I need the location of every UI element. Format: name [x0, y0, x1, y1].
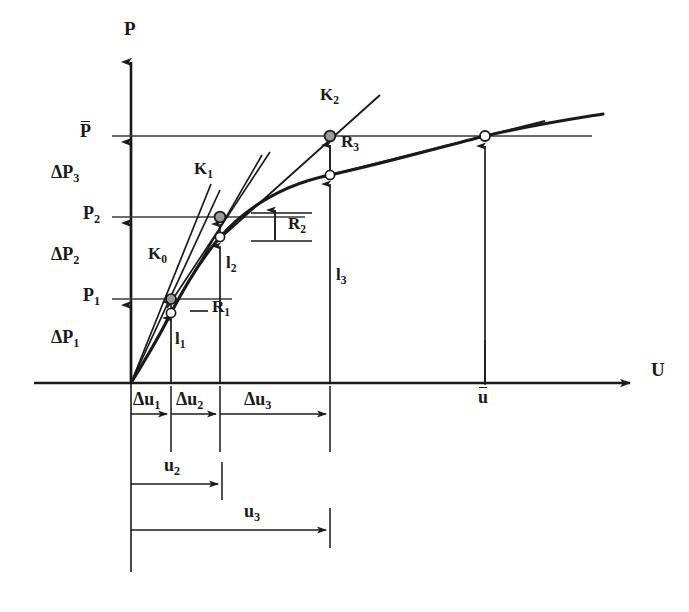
p-bar-label: P: [80, 122, 91, 140]
load-displacement-diagram: P U P P2 P1 ΔP3 ΔP2 ΔP1 K0 K1 K2 R1 R2 R…: [0, 0, 689, 612]
K1-label: K1: [194, 160, 213, 180]
R1-glyph: R: [212, 297, 224, 316]
R1-label: R1: [212, 298, 230, 318]
p2-sub: 2: [94, 212, 100, 226]
l3-label: l3: [336, 266, 347, 286]
K1-sub: 1: [207, 168, 213, 181]
y-axis-label: P: [124, 19, 136, 38]
du1-glyph: Δu: [133, 389, 154, 409]
load-displacement-curve: [131, 114, 603, 383]
u-bar-label: u: [478, 388, 488, 406]
l2-label: l2: [226, 254, 237, 274]
displacement-ticks: [171, 340, 485, 548]
u3-glyph: u: [244, 501, 254, 521]
p1-glyph: P: [83, 285, 94, 305]
marker-p2-tangent: [215, 212, 226, 223]
dP2-glyph: ΔP: [51, 244, 73, 264]
K1-glyph: K: [194, 159, 207, 178]
dP3-glyph: ΔP: [51, 162, 73, 182]
marker-p2-curve: [215, 232, 224, 241]
x-axis-label: U: [651, 360, 665, 379]
l2-sub: 2: [231, 262, 237, 275]
du2-sub: 2: [197, 398, 203, 412]
R1-sub: 1: [224, 306, 230, 319]
l1-label: l1: [175, 330, 186, 350]
du2-glyph: Δu: [176, 389, 197, 409]
du1-label: Δu1: [133, 390, 160, 411]
K0-glyph: K: [148, 244, 161, 263]
tangent-K0-line-b: [131, 190, 220, 383]
u-bar-glyph: u: [478, 388, 488, 406]
dP2-sub: 2: [73, 253, 79, 267]
displacement-increment-arrows: [131, 414, 326, 530]
dP1-label: ΔP1: [51, 328, 79, 349]
R3-glyph: R: [341, 132, 353, 151]
dP2-label: ΔP2: [51, 245, 79, 266]
marker-p1-curve: [166, 308, 175, 317]
tangent-K1-line-b: [167, 152, 270, 308]
K2-label: K2: [320, 86, 339, 106]
R2-label: R2: [288, 215, 306, 235]
R3-sub: 3: [353, 141, 359, 154]
du2-label: Δu2: [176, 390, 203, 411]
u2-label: u2: [164, 456, 180, 477]
node-markers: [166, 131, 490, 318]
marker-converged: [480, 131, 490, 141]
load-level-lines: [112, 136, 592, 299]
R2-sub: 2: [300, 223, 306, 236]
K0-sub: 0: [161, 253, 167, 266]
dP1-sub: 1: [73, 336, 79, 350]
p1-label: P1: [83, 286, 100, 307]
du3-sub: 3: [265, 398, 271, 412]
marker-p3-tangent: [325, 131, 336, 142]
K0-label: K0: [148, 245, 167, 265]
u3-label: u3: [244, 502, 260, 523]
diagram-canvas: [0, 0, 689, 612]
K2-glyph: K: [320, 85, 333, 104]
marker-p3-curve: [325, 170, 334, 179]
u3-sub: 3: [254, 510, 260, 524]
internal-force-arrows: [171, 146, 485, 383]
u2-sub: 2: [174, 464, 180, 478]
du3-glyph: Δu: [244, 389, 265, 409]
du1-sub: 1: [154, 398, 160, 412]
p2-label: P2: [83, 204, 100, 225]
l1-sub: 1: [180, 338, 186, 351]
u2-glyph: u: [164, 455, 174, 475]
dP3-label: ΔP3: [51, 163, 79, 184]
dP3-sub: 3: [73, 171, 79, 185]
du3-label: Δu3: [244, 390, 271, 411]
l3-sub: 3: [341, 274, 347, 287]
R2-glyph: R: [288, 214, 300, 233]
R3-label: R3: [341, 133, 359, 153]
marker-p1-tangent: [166, 294, 176, 304]
p-bar-glyph: P: [80, 122, 91, 140]
p1-sub: 1: [94, 294, 100, 308]
dP1-glyph: ΔP: [51, 327, 73, 347]
K2-sub: 2: [333, 94, 339, 107]
p2-glyph: P: [83, 203, 94, 223]
